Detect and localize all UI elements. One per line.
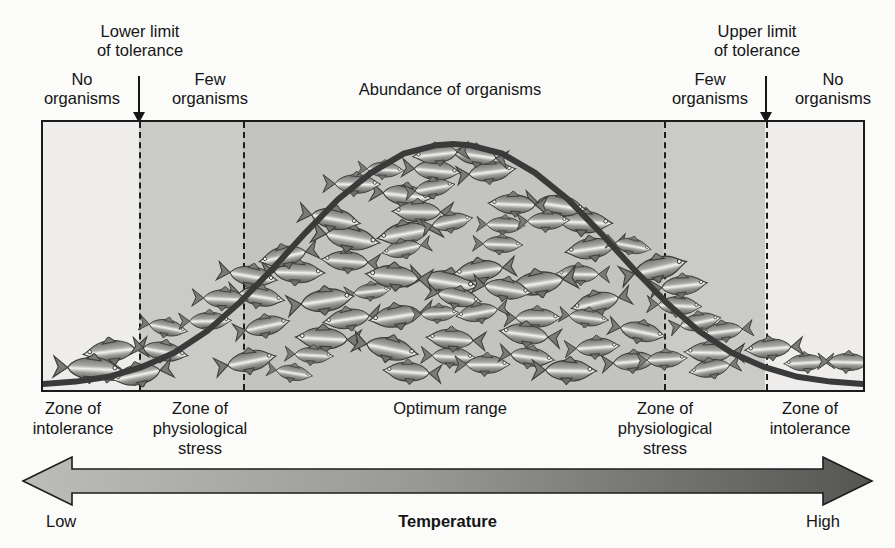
few-organisms-left-label: Few organisms	[150, 70, 270, 108]
x-axis-label: Temperature	[0, 512, 895, 531]
no-organisms-left-label: No organisms	[22, 70, 142, 108]
no-organisms-right-label: No organisms	[778, 70, 888, 108]
zone-stress-right-label: Zone of physiological stress	[592, 398, 738, 458]
temperature-gradient-arrow-icon	[20, 455, 875, 507]
upper-limit-label: Upper limit of tolerance	[672, 22, 842, 60]
zone-intolerance-right-label: Zone of intolerance	[735, 398, 885, 438]
lower-limit-arrow-down-icon	[132, 76, 146, 124]
zone-stress-left-label: Zone of physiological stress	[130, 398, 270, 458]
few-organisms-right-label: Few organisms	[650, 70, 770, 108]
temperature-high-label: High	[806, 512, 840, 531]
population-curve-svg	[43, 122, 863, 390]
plot-area	[41, 120, 865, 392]
optimum-range-label: Optimum range	[340, 398, 560, 418]
tolerance-curve-diagram: Lower limit of tolerance Upper limit of …	[0, 0, 895, 548]
abundance-label: Abundance of organisms	[300, 80, 600, 99]
population-curve	[43, 122, 863, 390]
lower-limit-label: Lower limit of tolerance	[55, 22, 225, 60]
zone-intolerance-left-label: Zone of intolerance	[8, 398, 138, 438]
upper-limit-arrow-down-icon	[759, 76, 773, 124]
